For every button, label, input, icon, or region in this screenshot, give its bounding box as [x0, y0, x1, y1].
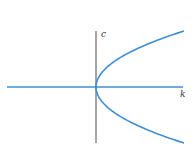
k-axis-label: k	[180, 90, 185, 99]
parabola-figure: c k	[0, 0, 195, 153]
c-axis-label: c	[101, 30, 106, 39]
plot-canvas	[0, 0, 195, 153]
